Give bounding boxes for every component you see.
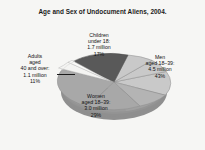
adults-line-5: 11% [2,78,68,84]
pie-label-women: Women aged 18–39: 3.0 million 29% [66,93,126,118]
women-line-4: 29% [66,112,126,118]
children-line-4: 17% [72,51,126,57]
men-line-4: 43% [132,73,188,79]
pie-label-men: Men aged 18–39: 4.5 million 43% [132,54,188,79]
chart-page: Age and Sex of Undocument Aliens, 2004. [0,0,205,150]
pie-label-children: Children under 18: 1.7 million 17% [72,32,126,57]
pie-label-adults: Adults aged 40 and over: 1.1 million 11% [2,53,68,84]
